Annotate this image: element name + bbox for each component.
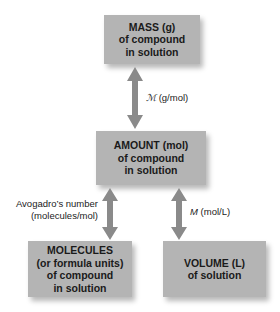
molecules-node-title: MOLECULES (47, 244, 113, 257)
double-arrow-icon-amount-volume (171, 188, 187, 240)
amount-node-title: AMOUNT (mol) (114, 139, 189, 152)
molarity-label: M (mol/L) (190, 206, 230, 218)
avogadro-label-line2: (molecules/mol) (6, 210, 98, 222)
molecules-node-line2: (or formula units) (37, 257, 124, 270)
molecules-node-line3: of compound (47, 269, 114, 282)
molar-mass-label: ℳ (g/mol) (146, 92, 188, 104)
molar-mass-unit: (g/mol) (159, 92, 189, 103)
mass-node-line2: of compound (119, 33, 186, 46)
volume-node-line2: of solution (188, 269, 242, 282)
volume-node: VOLUME (L) of solution (163, 241, 266, 297)
volume-node-title: VOLUME (L) (184, 257, 245, 270)
amount-node: AMOUNT (mol) of compound in solution (96, 131, 206, 185)
molecules-node-line4: in solution (53, 282, 106, 295)
mass-node-title: MASS (g) (129, 21, 176, 34)
avogadro-label: Avogadro’s number (molecules/mol) (6, 198, 98, 222)
molar-mass-symbol: ℳ (146, 92, 156, 103)
double-arrow-icon-amount-molecules (102, 188, 118, 240)
avogadro-label-line1: Avogadro’s number (6, 198, 98, 210)
molecules-node: MOLECULES (or formula units) of compound… (28, 241, 132, 297)
mass-node-line3: in solution (125, 46, 178, 59)
amount-node-line2: of compound (118, 152, 185, 165)
molarity-unit: (mol/L) (201, 206, 231, 217)
mass-node: MASS (g) of compound in solution (104, 15, 200, 64)
double-arrow-icon-mass-amount (127, 67, 143, 129)
amount-node-line3: in solution (124, 164, 177, 177)
molarity-symbol: M (190, 206, 198, 217)
